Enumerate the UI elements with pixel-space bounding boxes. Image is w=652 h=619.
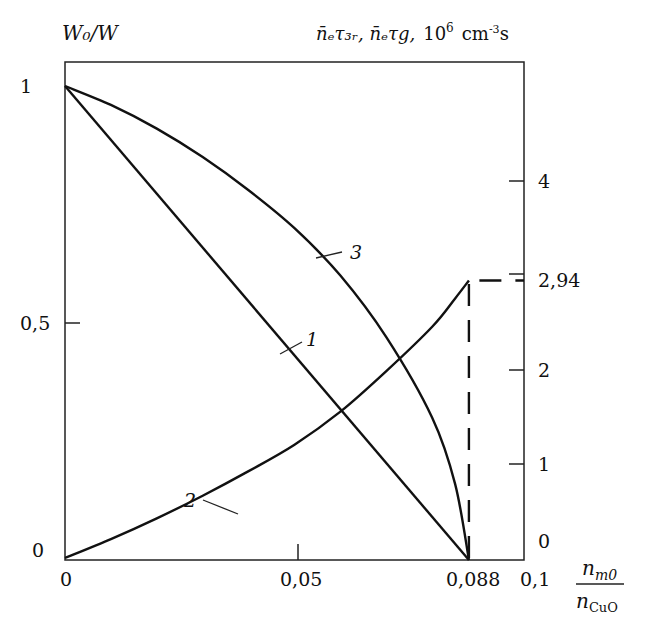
x-tick-label-0.088: 0,088 [446, 568, 500, 590]
curve-3-label: 3 [350, 241, 362, 263]
curve-1-label: 1 [306, 328, 318, 350]
curves-group [65, 86, 524, 560]
left-tick-label-1: 1 [20, 75, 32, 97]
left-tick-label-0: 0 [32, 539, 44, 561]
svg-text:nm0: nm0 [582, 556, 617, 583]
curve-2-leader [203, 500, 238, 514]
x-tick-label-0: 0 [60, 568, 72, 590]
left-tick-label-0.5: 0,5 [20, 312, 50, 334]
x-tick-label-0.1: 0,1 [520, 568, 550, 590]
x-axis-title: nm0 nCuO [576, 556, 624, 615]
right-axis-title: n̄ₑτ₃ᵣ, n̄ₑτg,106cm-3s [316, 21, 509, 44]
right-tick-label-1: 1 [538, 453, 550, 475]
right-tick-label-0: 0 [538, 530, 550, 552]
curve-2limit-dashed [469, 280, 524, 558]
curve-1 [65, 86, 469, 560]
svg-text:nCuO: nCuO [576, 589, 618, 615]
right-tick-label-4: 4 [538, 170, 550, 192]
left-axis-title: W₀/W [62, 21, 119, 45]
x-tick-label-0.05: 0,05 [280, 568, 322, 590]
chart-canvas: 3 1 2 W₀/W n̄ₑτ₃ᵣ, n̄ₑτg,106cm-3s 1 0,5 … [0, 0, 652, 619]
curve-2-label: 2 [183, 489, 196, 511]
right-tick-label-2: 2 [538, 359, 550, 381]
right-tick-label-2.94: 2,94 [538, 269, 580, 291]
